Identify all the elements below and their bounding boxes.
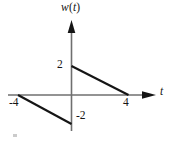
- segment-right: [72, 66, 129, 95]
- y-tick-label-2: 2: [57, 59, 63, 71]
- segment-left: [18, 95, 72, 124]
- scan-artifact: [13, 134, 17, 137]
- function-label-base: w: [61, 1, 69, 13]
- waveform-figure: w(t) t 2 -2 -4 4: [0, 0, 171, 144]
- x-axis-label: t: [160, 86, 163, 98]
- y-tick-label-neg2: -2: [76, 110, 86, 122]
- x-tick-label-neg4: -4: [9, 97, 19, 109]
- y-axis-arrow-icon: [68, 20, 76, 33]
- x-tick-label-4: 4: [123, 97, 129, 109]
- function-label-arg-close: ): [76, 1, 80, 13]
- plot-canvas: [0, 0, 171, 144]
- x-axis: [8, 91, 156, 99]
- function-label: w(t): [61, 2, 80, 14]
- x-axis-arrow-icon: [142, 91, 156, 99]
- y-axis: [68, 20, 76, 131]
